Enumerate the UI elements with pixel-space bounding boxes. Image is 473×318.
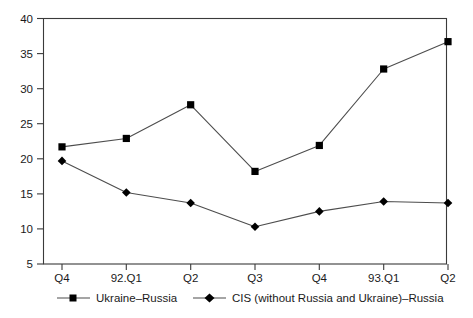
square-marker-icon: [70, 295, 77, 302]
y-tick-label-30: 30: [20, 83, 33, 95]
square-marker-icon: [123, 135, 130, 142]
x-tick-label-2: Q2: [183, 272, 198, 284]
x-tick-label-4: Q4: [312, 272, 328, 284]
x-axis-tick-labels: Q4 92.Q1 Q2 Q3 Q4 93.Q1 Q2: [54, 272, 455, 284]
chart-legend: Ukraine–Russia CIS (without Russia and U…: [57, 292, 444, 304]
legend-label-series-1: CIS (without Russia and Ukraine)–Russia: [232, 292, 444, 304]
y-tick-label-35: 35: [20, 48, 33, 60]
legend-label-series-0: Ukraine–Russia: [96, 292, 178, 304]
square-marker-icon: [251, 168, 258, 175]
square-marker-icon: [58, 143, 65, 150]
square-marker-icon: [187, 101, 194, 108]
y-tick-label-40: 40: [20, 13, 33, 25]
y-tick-label-5: 5: [27, 258, 33, 270]
square-marker-icon: [380, 65, 387, 72]
y-tick-label-15: 15: [20, 188, 33, 200]
x-tick-label-0: Q4: [54, 272, 70, 284]
line-chart: 40 35 30 25 20 15 10 5 Q4 92.Q1 Q2 Q3 Q4: [0, 0, 473, 318]
x-tick-label-5: 93.Q1: [368, 272, 399, 284]
x-tick-label-1: 92.Q1: [111, 272, 142, 284]
x-tick-label-6: Q2: [440, 272, 455, 284]
y-tick-label-20: 20: [20, 153, 33, 165]
chart-figure: 40 35 30 25 20 15 10 5 Q4 92.Q1 Q2 Q3 Q4: [0, 0, 473, 318]
square-marker-icon: [316, 142, 323, 149]
x-tick-label-3: Q3: [247, 272, 262, 284]
y-tick-label-25: 25: [20, 118, 33, 130]
chart-background: [0, 0, 473, 318]
square-marker-icon: [444, 38, 451, 45]
y-tick-label-10: 10: [20, 223, 33, 235]
